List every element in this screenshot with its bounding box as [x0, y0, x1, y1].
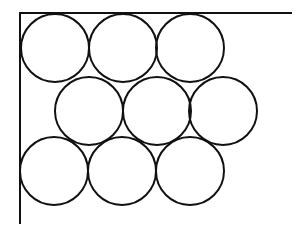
circle-middle-row-1 [55, 77, 123, 145]
circles-group [20, 14, 257, 205]
circle-bottom-row-2 [88, 137, 156, 205]
circle-top-row-1 [21, 14, 89, 82]
circle-middle-row-2 [123, 77, 191, 145]
circle-bottom-row-3 [156, 137, 224, 205]
circle-top-row-3 [156, 14, 224, 82]
circle-bottom-row-1 [20, 137, 88, 205]
diagram-canvas [0, 0, 301, 236]
circle-middle-row-3 [189, 77, 257, 145]
circle-packing-diagram [0, 0, 301, 236]
circle-top-row-2 [89, 14, 157, 82]
